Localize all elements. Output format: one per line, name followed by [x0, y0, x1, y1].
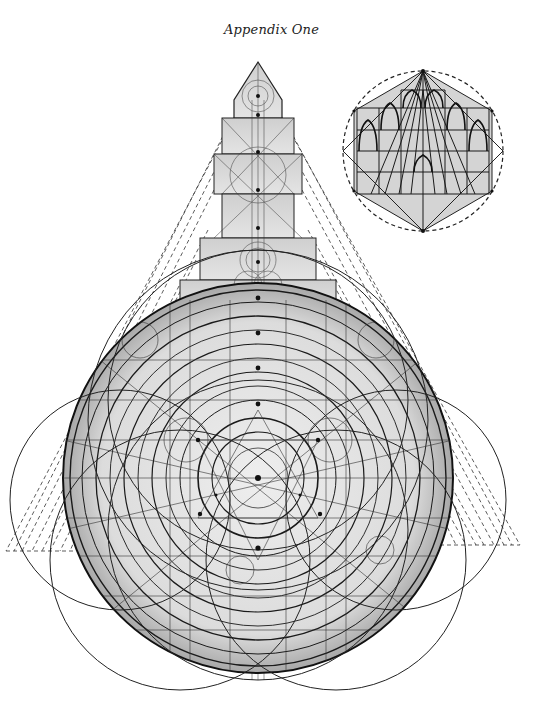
inset-hexagon-diagram	[343, 69, 503, 233]
geometric-diagram	[0, 0, 543, 710]
